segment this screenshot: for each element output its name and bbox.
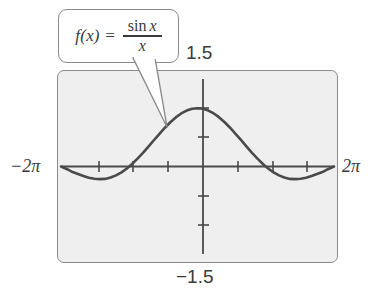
figure-sin-x-over-x: f(x) = sinx x −2π 2π 1.5 −1.5 — [0, 0, 375, 304]
callout-pointer-triangle — [133, 58, 167, 127]
callout-pointer — [0, 0, 375, 304]
